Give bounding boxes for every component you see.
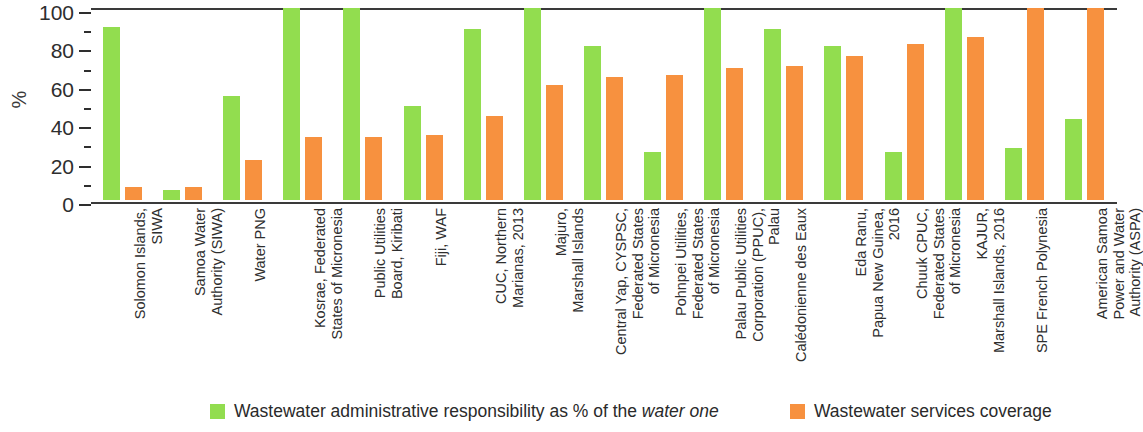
bar-group [343,12,403,200]
x-tick-label: Central Yap, CYSPSC, Federated States of… [613,208,663,388]
y-tick-major-100 [79,12,91,14]
legend-label: Wastewater services coverage [814,401,1052,421]
x-tick-label: Chuuk CPUC, Federated States of Micrones… [914,208,964,388]
y-tick-label-100: 100 [39,2,74,23]
x-tick-label: CUC, Northern Marianas, 2013 [493,208,526,388]
bar-administrative-responsibility [343,8,360,200]
bar-administrative-responsibility [1065,119,1082,200]
x-tick-label: Fiji, WAF [433,208,450,388]
bar-services-coverage [666,75,683,200]
bar-administrative-responsibility [524,8,541,200]
bar-services-coverage [606,77,623,200]
y-tick-minor-10 [84,185,91,187]
y-tick-major-0 [79,204,91,206]
legend-label-emphasis: water one [642,401,719,421]
bar-services-coverage [365,137,382,200]
x-axis-tick-labels: Solomon Islands, SIWASamoa Water Authori… [91,208,1117,388]
y-axis-tick-labels: 100806040200 [26,8,74,204]
bar-group [764,12,824,200]
bar-services-coverage [726,68,743,200]
y-tick-major-40 [79,127,91,129]
bar-administrative-responsibility [283,8,300,200]
bar-services-coverage [185,187,202,200]
bar-services-coverage [426,135,443,200]
bar-group [1005,12,1065,200]
x-tick-label: Public Utilities Board, Kiribati [372,208,405,388]
bar-administrative-responsibility [584,46,601,200]
y-tick-minor-50 [84,108,91,110]
bar-services-coverage [245,160,262,200]
chart-legend: Wastewater administrative responsibility… [0,398,1117,428]
bar-administrative-responsibility [464,29,481,200]
x-tick-label: American Samoa Power and Water Authority… [1094,208,1143,388]
y-tick-minor-70 [84,70,91,72]
bar-services-coverage [305,137,322,200]
bar-administrative-responsibility [404,106,421,200]
legend-label: Wastewater administrative responsibility… [234,401,719,421]
x-tick-label: Pohnpei Utilities, Federated States of M… [673,208,723,388]
bar-group [824,12,884,200]
x-tick-label: Kosrae, Federated States of Micronesia [312,208,345,388]
bar-group [1065,12,1125,200]
y-tick-label-40: 40 [51,117,74,138]
x-tick-label: Calédonienne des Eaux [793,208,810,388]
x-tick-label: Eda Ranu, Papua New Guinea, 2016 [853,208,903,388]
bar-group [885,12,945,200]
y-tick-major-60 [79,89,91,91]
bar-services-coverage [546,85,563,200]
x-tick-label: Majuro, Marshall Islands [553,208,586,388]
y-tick-major-20 [79,166,91,168]
x-tick-label: Water PNG [252,208,269,388]
y-tick-label-60: 60 [51,78,74,99]
x-tick-label: Samoa Water Authority (SIWA) [192,208,225,388]
bar-administrative-responsibility [764,29,781,200]
legend-item: Wastewater services coverage [790,398,1052,424]
bar-administrative-responsibility [223,96,240,200]
bar-group [704,12,764,200]
bar-services-coverage [125,187,142,200]
y-tick-label-20: 20 [51,155,74,176]
bar-group [945,12,1005,200]
legend-swatch-orange [790,404,805,419]
legend-swatch-green [210,404,225,419]
y-tick-label-0: 0 [62,194,74,215]
bar-services-coverage [846,56,863,200]
bar-group [103,12,163,200]
bar-group [223,12,283,200]
plot-area [91,8,1117,204]
bar-administrative-responsibility [704,8,721,200]
y-tick-minor-90 [84,31,91,33]
y-tick-major-80 [79,50,91,52]
bar-group [163,12,223,200]
plot-inner [91,12,1117,200]
bar-services-coverage [1027,8,1044,200]
y-axis-ticks [79,8,91,204]
bar-group [584,12,644,200]
x-tick-label: SPE French Polynesia [1034,208,1051,388]
bar-group [404,12,464,200]
bar-services-coverage [786,66,803,200]
bar-group [464,12,524,200]
y-tick-minor-30 [84,146,91,148]
bar-administrative-responsibility [824,46,841,200]
x-tick-label: Palau Public Utilities Corporation (PPUC… [733,208,783,388]
bar-services-coverage [967,37,984,200]
bar-administrative-responsibility [885,152,902,200]
bar-group [644,12,704,200]
bar-services-coverage [907,44,924,200]
bar-administrative-responsibility [103,27,120,200]
bar-services-coverage [486,116,503,200]
bar-administrative-responsibility [163,190,180,200]
bar-administrative-responsibility [644,152,661,200]
bar-services-coverage [1087,8,1104,200]
bar-administrative-responsibility [1005,148,1022,200]
y-tick-label-80: 80 [51,40,74,61]
x-tick-label: Solomon Islands, SIWA [132,208,165,388]
bar-group [283,12,343,200]
bar-group [524,12,584,200]
x-tick-label: KAJUR, Marshall Islands, 2016 [974,208,1007,388]
bar-administrative-responsibility [945,8,962,200]
legend-item: Wastewater administrative responsibility… [210,398,719,424]
